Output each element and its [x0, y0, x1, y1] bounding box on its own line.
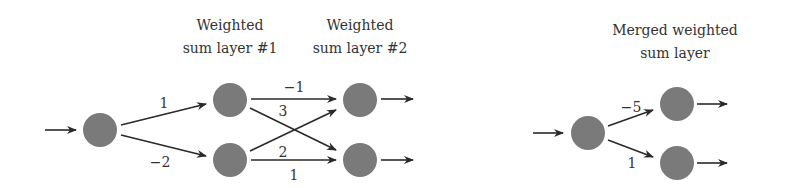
layer2-title-line1: Weighted — [327, 17, 394, 33]
layer1-title-line1: Weighted — [197, 17, 264, 33]
layer1-title-line2: sum layer #1 — [183, 40, 278, 56]
edge-l1bottom-to-l2top — [250, 110, 336, 151]
layer2-node-bottom — [343, 143, 377, 177]
layer1-node-bottom — [213, 143, 247, 177]
merged-node-bottom — [660, 146, 694, 180]
left-network: Weighted sum layer #1 Weighted sum layer… — [45, 17, 413, 183]
edge-l1top-to-l2bottom — [250, 108, 336, 150]
merged-title-line1: Merged weighted — [612, 22, 738, 38]
weight-top-top: −1 — [284, 79, 305, 95]
weight-in-bottom: −2 — [150, 154, 171, 170]
weight-bottom-top: 2 — [279, 144, 288, 160]
input-node — [83, 113, 117, 147]
weight-top-bottom: 3 — [279, 103, 288, 119]
layer2-node-top — [343, 83, 377, 117]
right-network: Merged weighted sum layer −5 1 — [533, 22, 738, 180]
layer1-node-top — [213, 83, 247, 117]
merged-weight-bottom: 1 — [628, 155, 637, 171]
neural-network-diagrams: Weighted sum layer #1 Weighted sum layer… — [0, 0, 785, 188]
merged-node-top — [660, 87, 694, 121]
edge-in-to-l1-bottom — [121, 135, 206, 156]
weight-bottom-bottom: 1 — [290, 167, 299, 183]
layer2-title-line2: sum layer #2 — [313, 40, 408, 56]
merged-weight-top: −5 — [621, 99, 642, 115]
merged-title-line2: sum layer — [640, 45, 710, 61]
merged-input-node — [571, 116, 605, 150]
weight-in-top: 1 — [160, 95, 169, 111]
